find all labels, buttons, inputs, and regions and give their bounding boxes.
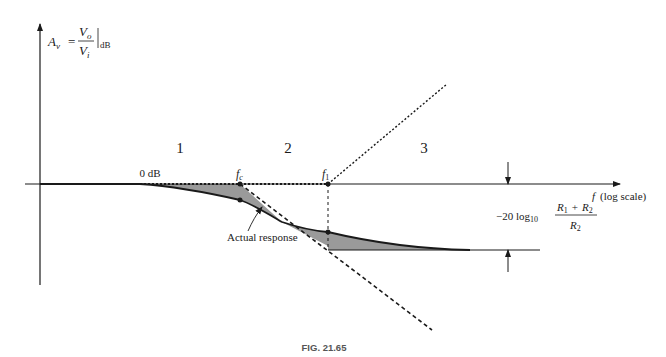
x-axis-label: f(log scale) xyxy=(592,190,647,203)
svg-text:−20 log10: −20 log10 xyxy=(496,210,538,224)
svg-text:Av: Av xyxy=(47,34,60,51)
actual-response-label: Actual response xyxy=(227,231,298,243)
attenuation-formula: −20 log10 R1+R2 R2 xyxy=(496,201,597,233)
f1-curve-point xyxy=(326,230,331,235)
zero-db-label: 0 dB xyxy=(139,167,160,179)
svg-text:R2: R2 xyxy=(569,219,581,233)
frequency-response-diagram: Av = Vo Vi dB 1 2 3 0 dB fc f1 f(log sca… xyxy=(0,0,666,357)
svg-text:R1+R2: R1+R2 xyxy=(556,201,593,215)
fc-point xyxy=(238,182,243,187)
actual-response-pointer xyxy=(248,207,262,231)
shaded-error-region-1 xyxy=(140,184,282,222)
region-label-1: 1 xyxy=(176,140,184,156)
svg-text:=: = xyxy=(68,34,75,49)
y-axis-label: Av = Vo Vi dB xyxy=(47,24,111,60)
region-label-3: 3 xyxy=(420,140,428,156)
svg-text:Vo: Vo xyxy=(79,24,92,41)
f1-label: f1 xyxy=(322,167,329,182)
f1-point xyxy=(326,182,331,187)
shaded-error-region-2 xyxy=(282,222,470,250)
figure-caption: FIG. 21.65 xyxy=(302,342,348,353)
fc-label: fc xyxy=(236,167,243,182)
rising-asymptote xyxy=(328,84,447,184)
svg-text:dB: dB xyxy=(100,40,111,50)
svg-text:Vi: Vi xyxy=(79,43,90,60)
rolloff-asymptote xyxy=(240,184,432,330)
fc-curve-point xyxy=(238,198,243,203)
region-label-2: 2 xyxy=(284,140,292,156)
